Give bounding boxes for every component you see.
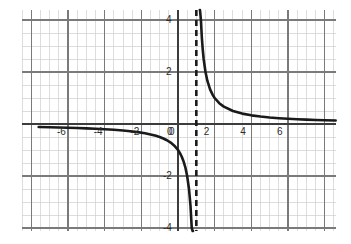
x-tick-label-neg2: -2 [130,127,139,137]
axes [22,10,336,231]
major-gridlines [22,10,336,231]
minor-gridlines [22,10,336,231]
graph-canvas: -6-4-20246420-2-4 [0,0,351,244]
y-tick-label-2: 2 [166,67,172,77]
y-tick-label-0: 0 [167,127,173,137]
y-tick-label-neg4: -4 [163,223,172,233]
plot-svg [0,0,351,244]
x-tick-label-2: 2 [204,127,210,137]
y-tick-label-neg2: -2 [163,171,172,181]
x-tick-label-neg6: -6 [57,127,66,137]
x-tick-label-neg4: -4 [94,127,103,137]
y-tick-label-4: 4 [166,15,172,25]
x-tick-label-4: 4 [240,127,246,137]
x-tick-label-6: 6 [277,127,283,137]
